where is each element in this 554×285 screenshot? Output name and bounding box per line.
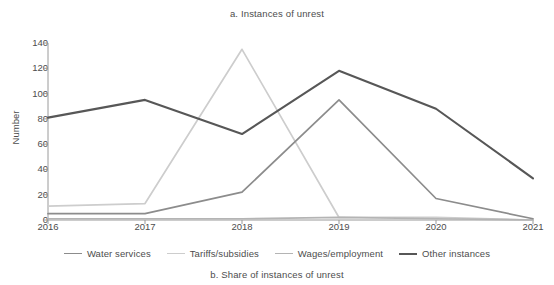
- legend-label: Water services: [87, 248, 151, 259]
- x-axis-ticks: 201620172018201920202021: [0, 222, 554, 238]
- chart-lines-svg: [0, 26, 554, 236]
- legend-item-tariffs-subsidies[interactable]: Tariffs/subsidies: [167, 248, 259, 259]
- figure-instances-of-unrest: a. Instances of unrest Number 0204060801…: [0, 0, 554, 285]
- legend-swatch-icon: [399, 253, 417, 255]
- series-line-water-services: [48, 100, 533, 219]
- x-tick-label: 2016: [37, 222, 58, 232]
- tick-marks: [44, 43, 533, 224]
- series-lines: [48, 49, 533, 220]
- x-tick-label: 2017: [134, 222, 155, 232]
- legend-swatch-icon: [167, 253, 185, 254]
- legend-item-water-services[interactable]: Water services: [64, 248, 151, 259]
- chart-caption: b. Share of instances of unrest: [0, 269, 554, 280]
- legend-label: Tariffs/subsidies: [190, 248, 259, 259]
- legend-swatch-icon: [275, 253, 293, 254]
- legend-label: Other instances: [422, 248, 490, 259]
- x-tick-label: 2020: [425, 222, 446, 232]
- chart-title: a. Instances of unrest: [0, 8, 554, 19]
- axis-lines: [48, 43, 533, 220]
- chart-legend: Water servicesTariffs/subsidiesWages/emp…: [0, 248, 554, 259]
- legend-item-wages-employment[interactable]: Wages/employment: [275, 248, 383, 259]
- plot-area: Number 020406080100120140 20162017201820…: [0, 26, 554, 236]
- x-tick-label: 2021: [522, 222, 543, 232]
- legend-item-other-instances[interactable]: Other instances: [399, 248, 490, 259]
- x-tick-label: 2018: [231, 222, 252, 232]
- legend-swatch-icon: [64, 253, 82, 254]
- series-line-tariffs-subsidies: [48, 49, 533, 220]
- legend-label: Wages/employment: [298, 248, 383, 259]
- x-tick-label: 2019: [328, 222, 349, 232]
- series-line-other-instances: [48, 71, 533, 178]
